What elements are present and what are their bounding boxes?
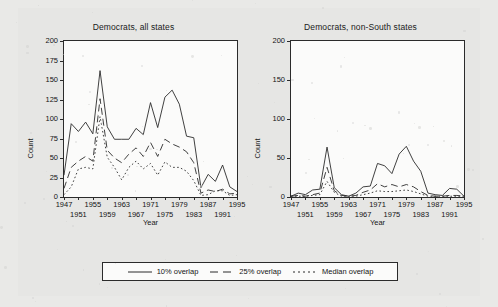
legend-swatch-dotted-icon: [292, 269, 318, 275]
x-tick-label: 1995: [450, 201, 478, 209]
panel-title-all-states: Democrats, all states: [26, 22, 241, 32]
x-tick-mark: [392, 197, 393, 200]
y-tick-mark: [287, 80, 290, 81]
y-tick-mark: [287, 158, 290, 159]
x-tick-label: 1951: [64, 211, 92, 219]
paper-speckle: [255, 3, 256, 4]
series-lines-all-states: [64, 41, 237, 197]
x-tick-label: 1947: [50, 201, 78, 209]
x-tick-label: 1983: [180, 211, 208, 219]
paper-speckle: [408, 144, 410, 146]
x-tick-label: 1967: [349, 211, 377, 219]
x-tick-mark: [165, 197, 166, 200]
y-tick-label: 50: [26, 154, 58, 162]
legend-label-10-percent: 10% overlap: [157, 267, 199, 276]
y-tick-label: 0: [253, 193, 285, 201]
y-tick-mark: [60, 41, 63, 42]
paper-speckle: [345, 288, 346, 289]
x-axis-label-all-states: Year: [63, 218, 238, 227]
paper-speckle: [24, 202, 26, 204]
x-tick-label: 1975: [378, 211, 406, 219]
x-tick-label: 1955: [79, 201, 107, 209]
paper-speckle: [398, 111, 401, 114]
y-tick-mark: [287, 197, 290, 198]
paper-speckle: [35, 301, 37, 303]
paper-speckle: [403, 153, 404, 154]
x-tick-label: 1963: [335, 201, 363, 209]
y-tick-mark: [60, 100, 63, 101]
x-tick-label: 1991: [436, 211, 464, 219]
y-tick-label: 0: [26, 193, 58, 201]
paper-speckle: [4, 266, 7, 269]
figure-canvas: Democrats, all states Count Year 0255075…: [0, 0, 498, 307]
paper-speckle: [340, 65, 343, 68]
paper-speckle: [311, 82, 313, 84]
series-line-dashed: [64, 99, 237, 194]
x-tick-label: 1955: [306, 201, 334, 209]
paper-speckle: [127, 174, 129, 176]
legend-entry-10-percent: 10% overlap: [127, 267, 199, 276]
plot-area-non-south-states: [290, 40, 465, 198]
paper-speckle: [66, 221, 67, 222]
y-tick-label: 125: [26, 96, 58, 104]
paper-speckle: [443, 140, 444, 141]
paper-speckle: [467, 168, 470, 171]
paper-speckle: [62, 54, 63, 55]
paper-speckle: [456, 185, 459, 188]
x-tick-label: 1959: [93, 211, 121, 219]
paper-speckle: [247, 176, 248, 177]
y-tick-label: 75: [26, 135, 58, 143]
legend-label-median: Median overlap: [322, 267, 373, 276]
paper-speckle: [482, 238, 484, 240]
x-tick-label: 1979: [165, 201, 193, 209]
y-tick-label: 200: [253, 37, 285, 45]
series-lines-non-south-states: [291, 41, 464, 197]
legend-entry-25-percent: 25% overlap: [209, 267, 281, 276]
paper-speckle: [248, 298, 249, 299]
chart-legend: 10% overlap 25% overlap Median overlap: [102, 262, 398, 281]
legend-swatch-solid-icon: [127, 269, 153, 275]
paper-speckle: [30, 132, 32, 134]
x-tick-label: 1987: [194, 201, 222, 209]
x-tick-label: 1975: [151, 211, 179, 219]
x-tick-label: 1967: [122, 211, 150, 219]
y-tick-label: 100: [253, 115, 285, 123]
paper-speckle: [305, 172, 307, 174]
x-tick-label: 1983: [407, 211, 435, 219]
y-tick-label: 175: [26, 57, 58, 65]
x-tick-mark: [78, 197, 79, 200]
x-tick-mark: [107, 197, 108, 200]
y-tick-label: 50: [253, 154, 285, 162]
y-tick-mark: [60, 197, 63, 198]
paper-speckle: [314, 118, 315, 119]
x-tick-mark: [194, 197, 195, 200]
paper-speckle: [451, 145, 452, 146]
paper-speckle: [369, 127, 372, 130]
x-tick-mark: [450, 197, 451, 200]
paper-speckle: [149, 148, 152, 151]
paper-speckle: [97, 114, 98, 115]
paper-speckle: [167, 32, 168, 33]
paper-speckle: [258, 83, 259, 84]
y-tick-mark: [287, 41, 290, 42]
panel-title-non-south-states: Democrats, non-South states: [253, 22, 468, 32]
y-tick-mark: [60, 119, 63, 120]
paper-speckle: [221, 55, 222, 56]
y-tick-label: 25: [26, 174, 58, 182]
x-tick-label: 1951: [291, 211, 319, 219]
paper-speckle: [166, 90, 167, 91]
series-line-solid: [64, 71, 237, 192]
y-tick-mark: [60, 158, 63, 159]
x-tick-mark: [223, 197, 224, 200]
x-tick-mark: [334, 197, 335, 200]
paper-speckle: [32, 297, 34, 299]
paper-speckle: [26, 45, 29, 48]
x-tick-label: 1947: [277, 201, 305, 209]
x-tick-mark: [421, 197, 422, 200]
y-axis-label-non-south-states: Count: [253, 119, 262, 159]
paper-speckle: [53, 44, 55, 46]
series-line-dashed: [291, 167, 464, 196]
y-tick-mark: [287, 119, 290, 120]
x-tick-label: 1987: [421, 201, 449, 209]
y-tick-label: 100: [26, 115, 58, 123]
